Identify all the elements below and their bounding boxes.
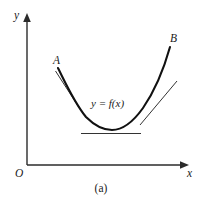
y-axis-arrow-icon xyxy=(23,13,31,22)
label-point-b: B xyxy=(170,32,177,44)
label-point-a: A xyxy=(52,54,61,66)
figure-graphic: A B y = f(x) O x y (a) xyxy=(0,0,202,207)
label-origin: O xyxy=(15,167,24,179)
figure-caption: (a) xyxy=(95,182,108,195)
figure-container: A B y = f(x) O x y (a) xyxy=(0,0,202,207)
label-y-axis: y xyxy=(13,9,20,22)
label-function-equation: y = f(x) xyxy=(90,97,124,110)
function-curve xyxy=(58,47,170,130)
label-x-axis: x xyxy=(186,167,193,179)
